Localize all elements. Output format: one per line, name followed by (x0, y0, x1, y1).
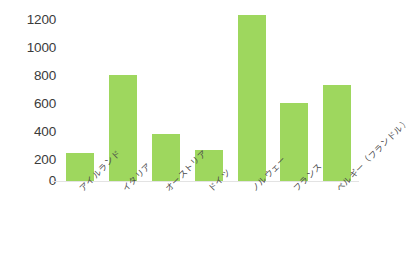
x-axis-label-slot: イタリア (102, 184, 145, 256)
y-axis-tick-label: 400 (34, 125, 56, 139)
y-axis-tick-label: 1200 (27, 13, 56, 27)
bar-slot (230, 14, 273, 181)
bar-france[interactable] (280, 103, 308, 181)
y-axis: 1200 1000 800 600 400 200 0 (14, 14, 56, 182)
y-axis-tick-label: 800 (34, 69, 56, 83)
x-axis-baseline (52, 181, 359, 182)
bar-italy[interactable] (109, 75, 137, 181)
x-axis-label-slot: ノルウェー (230, 184, 273, 256)
x-axis-label-slot: アイルランド (59, 184, 102, 256)
bar-belgium-flanders[interactable] (323, 85, 351, 181)
x-axis-label-slot: ドイツ (187, 184, 230, 256)
y-axis-tick-label: 600 (34, 97, 56, 111)
x-axis-label-slot: フランス (273, 184, 316, 256)
plot-area (59, 14, 359, 182)
bar-slot (59, 14, 102, 181)
y-axis-tick-label: 1000 (27, 41, 56, 55)
bar-norway[interactable] (238, 15, 266, 181)
bar-slot (145, 14, 188, 181)
x-axis-label-slot: オーストリア (145, 184, 188, 256)
bar-slot (316, 14, 359, 181)
bar-series (59, 14, 359, 181)
y-axis-tick-label: 200 (34, 153, 56, 167)
x-axis: アイルランド イタリア オーストリア ドイツ ノルウェー フランス ベルギー（フ… (59, 184, 359, 256)
x-axis-label-slot: ベルギー（フランドル） (316, 184, 359, 256)
